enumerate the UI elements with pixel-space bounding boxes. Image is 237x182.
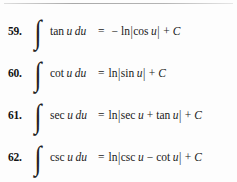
inner-operator: + xyxy=(144,109,157,121)
differential: du xyxy=(75,151,87,163)
formula-row: 62. ∫ cscudu = ln | csc u − cot u | + C xyxy=(0,136,237,178)
constant-of-integration: C xyxy=(194,109,202,121)
integrand-variable: u xyxy=(67,151,73,163)
formula-integrand: secudu xyxy=(46,109,87,121)
abs-bar-close: | xyxy=(157,24,160,39)
integral-formula-list: 59. ∫ tanudu = − ln | cos u | + C 60. ∫ … xyxy=(0,10,237,178)
formula-integrand: cscudu xyxy=(46,151,87,163)
integrand-function: tan xyxy=(50,25,64,37)
rhs-function: cos xyxy=(133,25,148,37)
formula-row: 61. ∫ secudu = ln | sec u + tan u | + C xyxy=(0,94,237,136)
formula-row: 59. ∫ tanudu = − ln | cos u | + C xyxy=(0,10,237,52)
abs-bar-open: | xyxy=(130,24,133,39)
integrand-function: cot xyxy=(50,67,64,79)
abs-bar-open: | xyxy=(117,108,120,123)
log-function: ln xyxy=(109,151,118,163)
page-top-rule xyxy=(4,3,233,4)
rhs-function-secondary: cot xyxy=(156,151,170,163)
constant-of-integration: C xyxy=(194,151,202,163)
differential: du xyxy=(75,67,87,79)
rhs-function-secondary: tan xyxy=(156,109,170,121)
integrand-variable: u xyxy=(67,109,73,121)
integrand-function: sec xyxy=(50,109,65,121)
formula-right-side: = ln | sec u + tan u | + C xyxy=(98,94,202,136)
formula-integrand: cotudu xyxy=(46,67,86,79)
formula-row: 60. ∫ cotudu = ln | sin u | + C xyxy=(0,52,237,94)
plus-sign: + xyxy=(182,109,195,121)
negative-sign: − xyxy=(109,25,122,37)
formula-right-side: = ln | csc u − cot u | + C xyxy=(98,136,202,178)
constant-of-integration: C xyxy=(173,25,181,37)
equals-sign: = xyxy=(98,25,109,37)
integrand-variable: u xyxy=(67,25,73,37)
rhs-function: sin xyxy=(121,67,134,79)
abs-bar-close: | xyxy=(142,66,145,81)
integrand-variable: u xyxy=(67,67,73,79)
constant-of-integration: C xyxy=(158,67,166,79)
document-page: 59. ∫ tanudu = − ln | cos u | + C 60. ∫ … xyxy=(0,0,237,182)
differential: du xyxy=(75,25,87,37)
integrand-function: csc xyxy=(50,151,65,163)
formula-number: 59. xyxy=(0,25,30,37)
abs-bar-close: | xyxy=(179,150,182,165)
plus-sign: + xyxy=(182,151,195,163)
rhs-function: sec xyxy=(121,109,136,121)
plus-sign: + xyxy=(146,67,159,79)
abs-bar-close: | xyxy=(179,108,182,123)
log-function: ln xyxy=(109,67,118,79)
formula-number: 60. xyxy=(0,67,30,79)
equals-sign: = xyxy=(98,67,109,79)
abs-bar-open: | xyxy=(117,66,120,81)
rhs-function: csc xyxy=(121,151,136,163)
abs-bar-open: | xyxy=(117,150,120,165)
formula-right-side: = − ln | cos u | + C xyxy=(98,10,180,52)
formula-integrand: tanudu xyxy=(46,25,86,37)
formula-number: 62. xyxy=(0,151,30,163)
formula-number: 61. xyxy=(0,109,30,121)
differential: du xyxy=(75,109,87,121)
log-function: ln xyxy=(109,109,118,121)
inner-operator: − xyxy=(144,151,157,163)
equals-sign: = xyxy=(98,109,109,121)
log-function: ln xyxy=(121,25,130,37)
equals-sign: = xyxy=(98,151,109,163)
plus-sign: + xyxy=(160,25,173,37)
formula-right-side: = ln | sin u | + C xyxy=(98,52,166,94)
